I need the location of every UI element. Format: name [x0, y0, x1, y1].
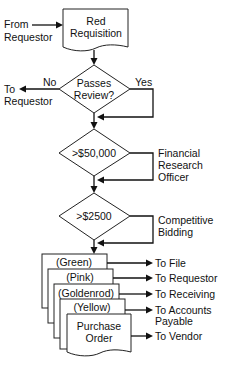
decision-label: >$2500	[76, 210, 111, 222]
decision-passes-review: Passes Review? No Yes To Requestor	[4, 65, 153, 121]
copy-label: (Pink)	[66, 271, 93, 283]
requestor-label: Requestor	[4, 31, 53, 43]
flowchart: From Requestor Red Requisition Passes Re…	[0, 0, 225, 371]
decision-line2: Review?	[74, 89, 114, 101]
from-requestor-input: From Requestor	[4, 18, 63, 43]
arrow-head-icon	[56, 22, 63, 29]
arrow-head-icon	[91, 122, 98, 129]
arrow-head-icon	[97, 114, 104, 121]
decision-label: >$50,000	[72, 147, 116, 159]
red-requisition-document: Red Requisition	[63, 9, 128, 51]
arrow-head-icon	[146, 333, 153, 340]
decision-line1: Passes	[77, 77, 111, 89]
arrow-head-icon	[146, 307, 153, 314]
po-line1: Purchase	[77, 320, 122, 332]
arrow-head-icon	[97, 177, 104, 184]
arrow-head-icon	[91, 58, 98, 65]
arrow-head-icon	[19, 86, 26, 93]
decision-over-2500: >$2500 Competitive Bidding	[59, 193, 214, 247]
side-line1: Competitive	[158, 214, 214, 226]
side-line1: Financial	[158, 147, 200, 159]
side-line2: Bidding	[158, 226, 193, 238]
side-line2: Research	[158, 159, 203, 171]
doc-line2: Requisition	[70, 27, 122, 39]
arrow-head-icon	[146, 275, 153, 282]
from-label: From	[4, 18, 29, 30]
copy-label: (Goldenrod)	[58, 287, 114, 299]
destination-vendor: To Vendor	[155, 330, 203, 342]
to-label: To	[4, 83, 15, 95]
destination-receiving: To Receiving	[155, 288, 215, 300]
requestor-label: Requestor	[4, 95, 53, 107]
destination-file: To File	[155, 257, 186, 269]
destination-requestor: To Requestor	[155, 272, 218, 284]
copy-label: (Yellow)	[74, 301, 111, 313]
purchase-order-document: Purchase Order	[67, 314, 131, 356]
doc-line1: Red	[86, 15, 105, 27]
po-line2: Order	[86, 332, 113, 344]
side-line3: Officer	[158, 171, 189, 183]
copy-label: (Green)	[56, 256, 92, 268]
no-label: No	[43, 76, 57, 88]
decision-over-50000: >$50,000 Financial Research Officer	[59, 129, 203, 184]
yes-label: Yes	[135, 76, 152, 88]
arrow-head-icon	[146, 260, 153, 267]
arrow-head-icon	[91, 186, 98, 193]
arrow-head-icon	[91, 247, 98, 254]
arrow-head-icon	[97, 240, 104, 247]
destination-payable: Payable	[155, 315, 193, 327]
arrow-head-icon	[146, 291, 153, 298]
